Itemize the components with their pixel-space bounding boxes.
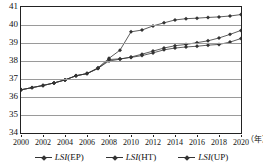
x-tick-2002 xyxy=(43,135,44,137)
x-axis-unit-label: （年） xyxy=(246,136,263,144)
x-tick-2014 xyxy=(175,135,176,137)
data-point-marker xyxy=(30,86,34,90)
legend-marker-icon xyxy=(178,154,195,161)
gridline-35 xyxy=(21,115,241,116)
data-point-marker xyxy=(217,15,221,19)
x-tick-2012 xyxy=(153,135,154,137)
series-lsiup xyxy=(21,37,241,92)
data-point-marker xyxy=(195,16,199,20)
x-tick-2020 xyxy=(241,135,242,137)
data-point-marker xyxy=(140,28,144,32)
x-tick-label-2012: 2012 xyxy=(145,139,161,147)
y-tick-label-37: 37 xyxy=(0,74,18,83)
data-point-marker xyxy=(52,81,56,85)
x-tick-label-2014: 2014 xyxy=(167,139,183,147)
data-point-marker xyxy=(85,72,89,76)
y-axis: 4140393837363534 xyxy=(0,6,18,134)
gridline-36 xyxy=(21,97,241,98)
y-tick-label-35: 35 xyxy=(0,110,18,119)
data-point-marker xyxy=(239,37,241,41)
data-point-marker xyxy=(195,44,199,48)
x-tick-2004 xyxy=(65,135,66,137)
y-tick-label-34: 34 xyxy=(0,128,18,137)
data-point-marker xyxy=(173,18,177,22)
y-tick-label-40: 40 xyxy=(0,20,18,29)
x-tick-2000 xyxy=(21,135,22,137)
data-point-marker xyxy=(129,55,133,59)
data-point-marker xyxy=(206,15,210,19)
x-tick-label-2016: 2016 xyxy=(189,139,205,147)
x-tick-label-2018: 2018 xyxy=(211,139,227,147)
y-tick-label-36: 36 xyxy=(0,92,18,101)
legend-item-lsiht[interactable]: LSI(HT) xyxy=(106,153,157,162)
x-tick-label-2004: 2004 xyxy=(57,139,73,147)
data-point-marker xyxy=(173,46,177,50)
data-point-marker xyxy=(184,17,188,21)
data-point-marker xyxy=(21,88,23,92)
x-tick-label-2000: 2000 xyxy=(13,139,29,147)
legend-marker-icon xyxy=(106,154,123,161)
gridline-40 xyxy=(21,25,241,26)
data-point-marker xyxy=(184,45,188,49)
x-tick-2008 xyxy=(109,135,110,137)
legend-label: LSI(UP) xyxy=(198,153,228,162)
legend-item-lsiup[interactable]: LSI(UP) xyxy=(178,153,228,162)
x-tick-2006 xyxy=(87,135,88,137)
gridline-38 xyxy=(21,61,241,62)
data-point-marker xyxy=(129,30,133,34)
y-tick-label-38: 38 xyxy=(0,56,18,65)
data-point-marker xyxy=(74,74,78,78)
data-point-marker xyxy=(239,13,241,17)
chart-legend: LSI(EP)LSI(HT)LSI(UP) xyxy=(0,150,263,165)
x-tick-2018 xyxy=(219,135,220,137)
y-tick-label-41: 41 xyxy=(0,2,18,11)
legend-item-lsiep[interactable]: LSI(EP) xyxy=(35,153,84,162)
legend-label: LSI(HT) xyxy=(126,153,157,162)
gridline-39 xyxy=(21,43,241,44)
x-tick-2010 xyxy=(131,135,132,137)
plot-area xyxy=(20,6,242,134)
x-tick-2016 xyxy=(197,135,198,137)
legend-marker-icon xyxy=(35,154,52,161)
data-point-marker xyxy=(228,32,232,36)
data-point-marker xyxy=(41,84,45,88)
x-tick-label-2008: 2008 xyxy=(101,139,117,147)
x-tick-label-2006: 2006 xyxy=(79,139,95,147)
x-axis: 2000200220042006200820102012201420162018… xyxy=(20,135,263,149)
x-tick-label-2002: 2002 xyxy=(35,139,51,147)
data-point-marker xyxy=(228,14,232,18)
line-chart: 4140393837363534 20002002200420062008201… xyxy=(0,0,263,167)
gridline-37 xyxy=(21,79,241,80)
y-tick-label-39: 39 xyxy=(0,38,18,47)
data-point-marker xyxy=(239,28,241,32)
x-tick-label-2010: 2010 xyxy=(123,139,139,147)
data-point-marker xyxy=(217,36,221,40)
legend-label: LSI(EP) xyxy=(55,153,84,162)
